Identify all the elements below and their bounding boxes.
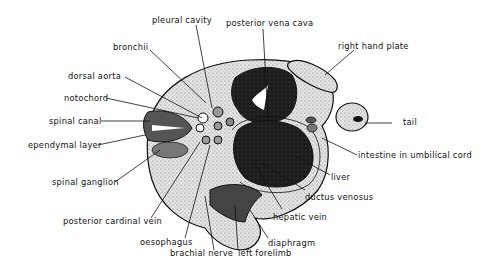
liver-mass: [234, 121, 314, 187]
label-brachial-nerve: brachial nerve: [170, 248, 233, 258]
anatomy-drawing: [0, 0, 487, 276]
label-bronchii: bronchii: [113, 42, 148, 52]
label-diaphragm: diaphragm: [268, 238, 315, 248]
label-spinal-canal: spinal canal: [49, 116, 101, 126]
label-hepatic-vein: hepatic vein: [273, 212, 327, 222]
label-posterior-cardinal-vein: posterior cardinal vein: [63, 216, 162, 226]
spinal-ganglion-shape: [152, 142, 188, 158]
label-pleural-cavity: pleural cavity: [152, 15, 212, 25]
label-left-forelimb: left forelimb: [238, 248, 292, 258]
tail-shape: [336, 103, 368, 131]
label-spinal-ganglion: spinal ganglion: [52, 177, 119, 187]
label-ependymal-layer: ependymal layer: [28, 140, 102, 150]
label-intestine-in-umbilical-cord: intestine in umbilical cord: [358, 150, 472, 160]
label-ductus-venosus: ductus venosus: [305, 192, 373, 202]
label-posterior-vena-cava: posterior vena cava: [226, 18, 313, 28]
label-liver: liver: [331, 172, 350, 182]
label-oesophagus: oesophagus: [140, 237, 193, 247]
label-right-hand-plate: right hand plate: [338, 41, 409, 51]
label-dorsal-aorta: dorsal aorta: [68, 71, 121, 81]
label-notochord: notochord: [64, 93, 108, 103]
cross-section-diagram: pleural cavity posterior vena cava bronc…: [0, 0, 487, 276]
label-tail: tail: [403, 117, 417, 127]
